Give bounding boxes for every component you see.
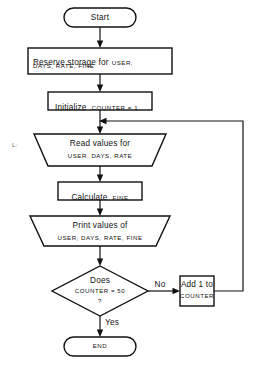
calculate-fine-line1: CalculateFINE — [71, 186, 128, 204]
arrowhead-print-to-decision — [97, 259, 103, 267]
arrowhead-decision-no — [173, 288, 181, 294]
start-terminator-label: Start — [91, 13, 109, 22]
initialize-counter-vars: COUNTER = 1 — [92, 104, 139, 111]
decision-line3: ? — [98, 298, 102, 305]
edge-label-no: No — [155, 280, 166, 289]
read-values-line1: Read values for — [70, 139, 130, 148]
decision-line1: Does — [90, 276, 110, 285]
read-values-line2: USER, DAYS, RATE — [68, 153, 132, 160]
increment-counter-line1: Add 1 to — [181, 280, 213, 289]
decision-line2: COUNTER = 50 — [75, 288, 125, 295]
arrowhead-start-to-reserve — [97, 41, 103, 49]
initialize-counter-line1: InitializeCOUNTER = 1 — [55, 96, 138, 114]
arrowhead-initialize-to-read — [97, 127, 103, 135]
flowchart-canvas: Start Reserve storage forUSER, DAYS, RAT… — [0, 0, 260, 366]
arrowhead-reserve-to-initialize — [97, 85, 103, 93]
increment-counter-line2: COUNTER — [180, 293, 214, 300]
reserve-storage-line2: DAYS, RATE, FINE — [33, 63, 94, 70]
calculate-fine-text: Calculate — [71, 193, 107, 202]
loop-label-marker: L: — [12, 142, 18, 149]
reserve-storage-vars: USER, — [112, 59, 133, 66]
print-values-line1: Print values of — [73, 221, 128, 230]
initialize-counter-text: Initialize — [55, 103, 87, 112]
print-values-line2: USER, DAYS, RATE, FINE — [57, 235, 142, 242]
arrowhead-decision-yes — [97, 330, 103, 338]
arrowhead-calculate-to-print — [97, 209, 103, 217]
calculate-fine-vars: FINE — [112, 194, 128, 201]
edge-label-yes: Yes — [105, 318, 119, 327]
arrowhead-read-to-calculate — [97, 175, 103, 183]
end-terminator-label: END — [93, 343, 108, 350]
